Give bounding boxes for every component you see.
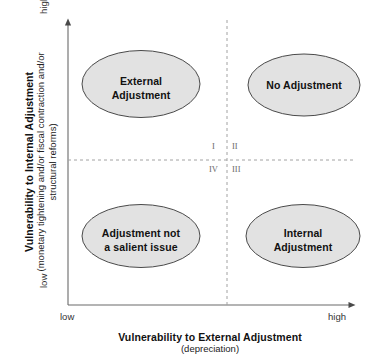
label-internal-adjustment-line1: Internal [243, 227, 363, 241]
y-axis-caption: Vulnerability to Internal Adjustment (mo… [23, 27, 59, 297]
quadrant-number-one: I [212, 141, 215, 151]
label-adjustment-not-salient: Adjustment not a salient issue [81, 227, 201, 254]
quadrant-number-four: IV [209, 164, 218, 174]
label-no-adjustment-line1: No Adjustment [244, 79, 364, 93]
label-adjustment-not-salient-line2: a salient issue [81, 241, 201, 255]
label-external-adjustment-line2: Adjustment [81, 89, 201, 103]
x-axis-title: Vulnerability to External Adjustment [55, 331, 365, 343]
y-axis-title: Vulnerability to Internal Adjustment [23, 27, 35, 297]
x-axis-subtitle: (depreciation) [55, 343, 365, 355]
y-axis-tick-high: high [38, 0, 49, 14]
quadrant-diagram: External Adjustment No Adjustment Adjust… [0, 0, 370, 363]
x-axis-caption: Vulnerability to External Adjustment (de… [55, 331, 365, 355]
quadrant-number-three: III [232, 164, 241, 174]
y-axis-subtitle: (monetary tightening and/or fiscal contr… [35, 47, 59, 277]
label-external-adjustment: External Adjustment [81, 75, 201, 102]
label-no-adjustment: No Adjustment [244, 79, 364, 93]
x-axis-tick-high: high [328, 311, 346, 322]
x-axis-tick-low: low [60, 311, 74, 322]
label-internal-adjustment-line2: Adjustment [243, 241, 363, 255]
quadrant-number-two: II [232, 141, 238, 151]
label-internal-adjustment: Internal Adjustment [243, 227, 363, 254]
label-external-adjustment-line1: External [81, 75, 201, 89]
label-adjustment-not-salient-line1: Adjustment not [81, 227, 201, 241]
